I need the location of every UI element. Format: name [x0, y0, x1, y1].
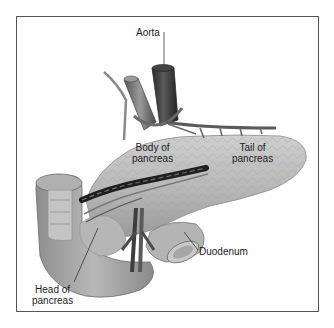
label-aorta: Aorta [136, 27, 160, 38]
label-body-line1: Body of [132, 142, 173, 153]
label-tail-line1: Tail of [232, 142, 273, 153]
label-tail-of-pancreas: Tail of pancreas [232, 142, 273, 164]
great-vessels [104, 65, 276, 141]
label-body-of-pancreas: Body of pancreas [132, 142, 173, 164]
label-body-line2: pancreas [132, 153, 173, 164]
label-head-of-pancreas: Head of pancreas [32, 284, 73, 306]
label-head-line2: pancreas [32, 295, 73, 306]
label-duodenum: Duodenum [199, 246, 248, 257]
label-tail-line2: pancreas [232, 153, 273, 164]
label-head-line1: Head of [32, 284, 73, 295]
duodenum-segment [146, 222, 204, 267]
pancreas-illustration [0, 0, 334, 328]
